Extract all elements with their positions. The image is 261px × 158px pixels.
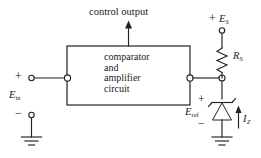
supply-label: ES [219,13,229,24]
block-right-terminal[interactable] [187,75,193,81]
control-output-label: control output [89,6,148,17]
supply-label-subscript: S [226,18,229,25]
resistor-label: RS [233,50,243,61]
zener-reference-label: Eref [185,106,198,117]
block-label-group: comparator and amplifier circuit [104,52,150,94]
resistor-icon [217,48,227,78]
zener-plus-sign: + [198,93,205,106]
block-label-line-1: comparator [104,52,150,63]
zener-current-subscript: Z [247,118,251,125]
input-label-subscript: in [16,94,21,101]
resistor-label-subscript: S [240,55,243,62]
input-label: Ein [9,89,20,100]
input-plus-sign: + [15,70,22,83]
arrow-up-icon [125,21,132,29]
block-left-terminal[interactable] [64,75,70,81]
resistor-label-symbol: R [233,50,239,61]
ground-icon [212,137,232,145]
circuit-diagram: control output comparator and amplifier … [0,0,261,158]
input-positive-terminal[interactable] [29,75,34,80]
block-label-line-4: circuit [104,84,150,95]
arrow-up-icon [235,106,241,129]
supply-label-symbol: E [219,13,225,24]
zener-current-label: IZ [243,113,250,124]
zener-diode-icon [209,99,236,121]
zener-minus-sign: − [198,117,205,130]
input-negative-terminal[interactable] [29,112,34,117]
input-minus-sign: − [15,107,22,120]
supply-plus-sign: + [209,12,216,25]
ground-icon [22,137,42,145]
zener-current-symbol: I [243,113,247,124]
zener-reference-symbol: E [185,106,191,117]
supply-terminal[interactable] [219,28,224,33]
input-label-symbol: E [9,89,15,100]
